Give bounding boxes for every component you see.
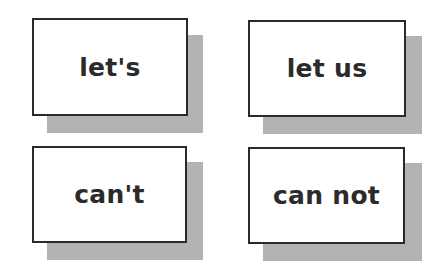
card-label: can not [273, 181, 380, 210]
card-label: let us [287, 54, 368, 83]
word-card-cant[interactable]: can't [32, 146, 187, 243]
word-card-can-not[interactable]: can not [248, 147, 405, 244]
word-card-lets[interactable]: let's [32, 18, 188, 116]
card-label: can't [74, 180, 145, 209]
card-label: let's [79, 53, 141, 82]
word-card-let-us[interactable]: let us [248, 20, 406, 117]
